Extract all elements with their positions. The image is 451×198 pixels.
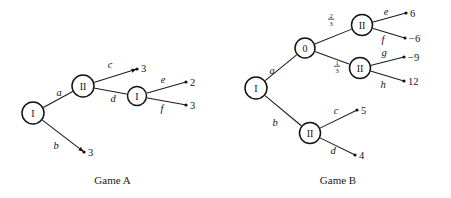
terminal-node-dot	[184, 80, 187, 83]
action-label: e	[161, 74, 166, 85]
action-label: b	[53, 140, 58, 151]
terminal-node-dot	[184, 103, 187, 106]
action-label: g	[381, 47, 386, 58]
payoff-label: 3	[88, 147, 93, 158]
payoff-label: 3	[190, 100, 195, 111]
caption-game-b: Game B	[225, 174, 451, 186]
game-tree-diagram: IIIII0IIIIII abcdef3323ab2313efghcd6−6−9…	[0, 0, 451, 198]
node-label: I	[31, 108, 34, 119]
payoff-label: 12	[408, 76, 419, 87]
action-label: f	[161, 103, 166, 114]
payoff-label: 5	[361, 105, 366, 116]
node-label: II	[359, 20, 366, 31]
nodes-layer: IIIII0IIIIII	[22, 15, 373, 144]
tree-edge	[316, 52, 349, 64]
probability-denominator: 3	[329, 20, 332, 27]
action-label: b	[272, 117, 277, 128]
terminal-node-dot	[404, 11, 407, 14]
caption-game-a: Game A	[0, 174, 225, 186]
payoff-label: 3	[141, 63, 146, 74]
node-label: I	[254, 83, 257, 94]
node-label: II	[307, 128, 314, 139]
tree-edge	[321, 138, 355, 154]
terminal-node-dot	[355, 108, 358, 111]
payoff-label: −6	[409, 33, 420, 44]
action-label: a	[269, 65, 274, 76]
probability-numerator: 1	[335, 59, 338, 66]
payoff-label: 4	[359, 150, 365, 161]
tree-edge	[147, 82, 185, 93]
action-label: a	[56, 87, 61, 98]
edges-layer	[43, 13, 405, 154]
terminal-node-dot	[353, 153, 356, 156]
node-label: II	[357, 63, 364, 74]
game-tree-figure: IIIII0IIIIII abcdef3323ab2313efghcd6−6−9…	[0, 0, 451, 198]
tree-edge	[315, 29, 351, 43]
action-label: d	[110, 93, 116, 104]
action-label: d	[330, 145, 336, 156]
action-label: c	[334, 105, 339, 116]
action-label: c	[108, 59, 113, 70]
payoff-label: 2	[190, 77, 195, 88]
payoff-label: −9	[408, 52, 419, 63]
tree-edge	[373, 28, 404, 37]
terminal-node-dot	[403, 36, 406, 39]
node-label: I	[135, 91, 138, 102]
probability-denominator: 3	[335, 67, 338, 74]
terminal-node-dot	[402, 79, 405, 82]
tree-edge	[265, 96, 301, 126]
tree-edge	[371, 57, 403, 65]
terminal-node-dot	[135, 67, 138, 70]
action-label: f	[382, 34, 387, 45]
terminal-node-dot	[82, 150, 85, 153]
terminal-node-dot	[402, 55, 405, 58]
tree-edge	[373, 13, 405, 22]
action-label: e	[384, 6, 389, 17]
node-label: II	[80, 81, 87, 92]
tree-edge	[148, 98, 186, 105]
payoff-label: 6	[410, 8, 415, 19]
node-label: 0	[303, 43, 308, 54]
tree-edge	[43, 120, 84, 151]
action-label: h	[380, 79, 385, 90]
probability-numerator: 2	[329, 12, 332, 19]
tree-edge	[371, 71, 403, 80]
tree-edge	[95, 69, 136, 82]
